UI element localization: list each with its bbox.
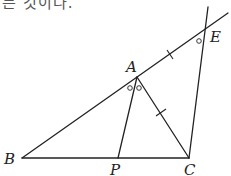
tick-mark-ae: [167, 50, 173, 59]
label-a: A: [124, 58, 137, 76]
label-e: E: [209, 28, 221, 46]
label-b: B: [3, 150, 15, 168]
angle-mark-pac: [137, 86, 142, 91]
angle-mark-bap: [128, 86, 133, 91]
label-p: P: [109, 161, 121, 176]
line-ce-extended: [189, 7, 208, 158]
geometry-diagram: A B C P E: [0, 0, 231, 176]
label-c: C: [184, 161, 196, 176]
segment-ac: [137, 77, 189, 158]
line-ba-extended: [22, 13, 228, 158]
angle-mark-aec: [197, 39, 202, 44]
